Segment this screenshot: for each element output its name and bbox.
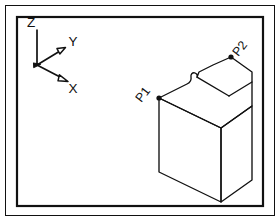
technical-drawing-figure: Z Y X P1 P2 — [0, 0, 280, 221]
y-axis-label: Y — [68, 34, 77, 49]
x-axis-label: X — [68, 81, 77, 96]
z-axis-label: Z — [27, 15, 35, 30]
p1-point-marker — [156, 95, 161, 100]
drawing-canvas: Z Y X P1 P2 — [0, 0, 280, 221]
outer-border — [6, 6, 275, 216]
p2-point-marker — [228, 54, 233, 59]
